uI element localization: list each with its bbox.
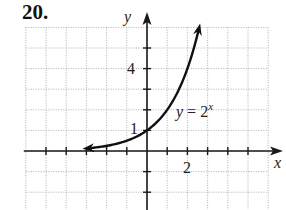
exponential-curve <box>82 24 201 153</box>
curve-label: y = 2x <box>174 100 213 121</box>
axes <box>24 12 283 210</box>
problem-number: 20. <box>22 0 48 25</box>
x-axis-label: x <box>273 154 281 171</box>
x-tick-label-2: 2 <box>183 159 191 176</box>
y-tick-label-4: 4 <box>127 60 135 77</box>
graph-figure: 20. y x 4 1 2 y = 2x <box>0 0 286 210</box>
y-tick-label-1: 1 <box>130 120 138 137</box>
y-axis-label: y <box>122 8 132 26</box>
curve-label-exponent: x <box>207 100 213 112</box>
curve-label-rest: = 2 <box>183 103 208 120</box>
plot-area: y x 4 1 2 y = 2x <box>0 0 286 210</box>
